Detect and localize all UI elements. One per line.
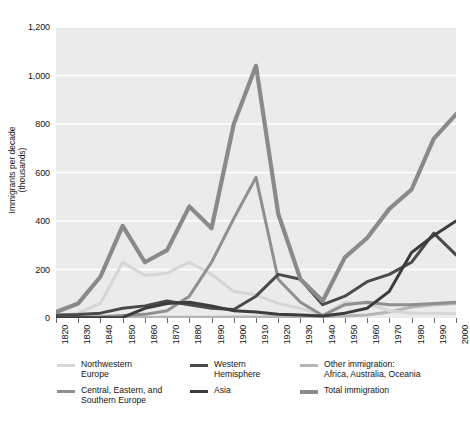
x-tick-label: 1940 (327, 325, 337, 344)
x-tick-label: 1970 (393, 325, 403, 344)
y-axis-tick-labels: 02004006008001,0001,200 (0, 0, 50, 422)
x-tick-label: 1920 (282, 325, 292, 344)
x-tick (300, 318, 301, 323)
x-tick (145, 318, 146, 323)
x-tick-label: 1850 (127, 325, 137, 344)
x-tick (278, 318, 279, 323)
legend-label: Total immigration (324, 386, 389, 396)
plot-area (56, 27, 456, 318)
legend-item[interactable]: Asia (190, 386, 260, 396)
x-tick (345, 318, 346, 323)
x-tick-label: 1830 (82, 325, 92, 344)
legend-column: Northwestern EuropeCentral, Eastern, and… (57, 360, 162, 412)
legend-swatch (57, 390, 75, 393)
y-tick-label: 400 (8, 216, 50, 226)
legend-label: Other immigration: Africa, Australia, Oc… (324, 360, 421, 379)
legend-swatch (300, 364, 318, 367)
x-axis-tick-labels: 1820183018401850186018701880189019001910… (56, 325, 456, 359)
legend-swatch (300, 390, 318, 394)
x-tick-label: 1910 (260, 325, 270, 344)
x-tick (256, 318, 257, 323)
y-tick-label: 1,200 (8, 22, 50, 32)
x-tick (412, 318, 413, 323)
legend-item[interactable]: Northwestern Europe (57, 360, 162, 379)
x-tick (323, 318, 324, 323)
legend-label: Northwestern Europe (81, 360, 132, 379)
chart-legend: Northwestern EuropeCentral, Eastern, and… (0, 360, 466, 422)
legend-label: Asia (214, 386, 231, 396)
legend-swatch (190, 390, 208, 393)
x-tick (456, 318, 457, 323)
x-tick (434, 318, 435, 323)
x-tick (234, 318, 235, 323)
x-tick-label: 1930 (304, 325, 314, 344)
x-tick-label: 1960 (371, 325, 381, 344)
legend-item[interactable]: Central, Eastern, and Southern Europe (57, 386, 162, 405)
plot-svg (56, 27, 456, 318)
legend-item[interactable]: Western Hemisphere (190, 360, 260, 379)
legend-column: Western HemisphereAsia (190, 360, 260, 403)
legend-swatch (190, 364, 208, 367)
legend-item[interactable]: Total immigration (300, 386, 421, 396)
legend-column: Other immigration: Africa, Australia, Oc… (300, 360, 421, 403)
y-tick-label: 1,000 (8, 71, 50, 81)
x-tick-label: 1880 (193, 325, 203, 344)
legend-label: Western Hemisphere (214, 360, 260, 379)
x-tick-label: 1990 (438, 325, 448, 344)
x-tick (389, 318, 390, 323)
x-tick (78, 318, 79, 323)
y-tick-label: 0 (8, 313, 50, 323)
x-tick (367, 318, 368, 323)
x-tick-label: 1900 (238, 325, 248, 344)
x-tick (123, 318, 124, 323)
legend-swatch (57, 364, 75, 367)
x-tick (212, 318, 213, 323)
x-tick (189, 318, 190, 323)
x-tick-label: 1890 (216, 325, 226, 344)
y-tick-label: 600 (8, 168, 50, 178)
x-tick-label: 1840 (104, 325, 114, 344)
legend-item[interactable]: Other immigration: Africa, Australia, Oc… (300, 360, 421, 379)
x-tick-label: 1950 (349, 325, 359, 344)
x-tick (100, 318, 101, 323)
x-tick-label: 2000 (460, 325, 470, 344)
x-tick-label: 1870 (171, 325, 181, 344)
x-tick-label: 1820 (60, 325, 70, 344)
y-tick-label: 200 (8, 265, 50, 275)
x-tick-label: 1860 (149, 325, 159, 344)
x-tick (56, 318, 57, 323)
x-tick-label: 1980 (416, 325, 426, 344)
x-tick (167, 318, 168, 323)
legend-label: Central, Eastern, and Southern Europe (81, 386, 162, 405)
x-axis-ticks (56, 318, 456, 324)
y-tick-label: 800 (8, 119, 50, 129)
